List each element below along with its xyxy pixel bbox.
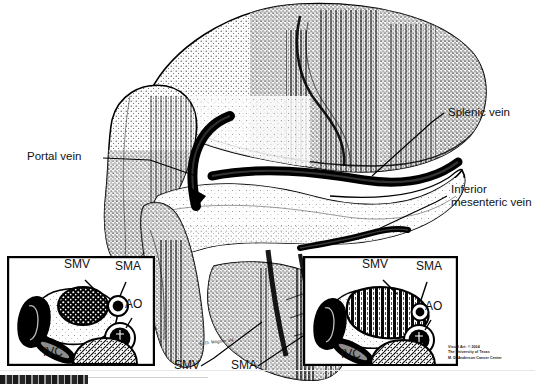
inset-tumor-label-sma: SMA bbox=[416, 260, 442, 273]
inset-tumor-label-smv: SMV bbox=[362, 258, 388, 271]
inset-panel-tumor: SMV SMA AO IVC bbox=[303, 256, 458, 366]
label-inferior-mesenteric-vein-line2: mesenteric vein bbox=[451, 196, 532, 209]
scan-artifact-line bbox=[88, 377, 208, 378]
inset-normal-label-smv: SMV bbox=[64, 258, 90, 271]
illustration-canvas: Portal vein Splenic vein Inferior mesent… bbox=[0, 0, 535, 389]
inset-normal-label-sma: SMA bbox=[115, 260, 141, 273]
label-inferior-mesenteric-vein-line1: Inferior bbox=[451, 183, 487, 196]
copyright-block: Visual Art: © 2004 The University of Tex… bbox=[448, 345, 502, 361]
copyright-line-3: M. D. Anderson Cancer Center bbox=[448, 356, 502, 361]
inset-tumor-label-ao: AO bbox=[425, 300, 442, 313]
inset-panel-normal: SMV SMA AO IVC bbox=[7, 256, 155, 366]
scan-artifact-bar bbox=[0, 375, 88, 384]
label-splenic-vein: Splenic vein bbox=[448, 106, 510, 119]
inset-normal-label-ao: AO bbox=[125, 298, 142, 311]
label-portal-vein: Portal vein bbox=[27, 150, 81, 163]
scan-edge-line bbox=[0, 370, 535, 371]
inset-tumor-label-ivc: IVC bbox=[341, 348, 361, 361]
inset-normal-label-ivc: IVC bbox=[43, 346, 63, 359]
